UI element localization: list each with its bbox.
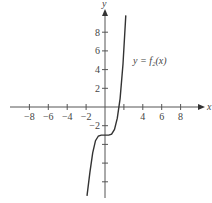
- x-axis-arrow-icon: [198, 104, 205, 110]
- x-tick-label: −6: [43, 111, 54, 122]
- y-axis-arrow-icon: [102, 9, 108, 16]
- series-line-f2: [87, 15, 126, 195]
- x-tick-label: 8: [178, 111, 183, 122]
- x-tick-label: −8: [24, 111, 35, 122]
- x-tick-label: −4: [62, 111, 73, 122]
- series-label: y = f₂(x): [132, 55, 167, 67]
- y-axis-label: y: [101, 0, 107, 9]
- y-tick-label: 8: [95, 27, 100, 38]
- x-tick-label: 6: [159, 111, 164, 122]
- y-tick-label: 2: [95, 83, 100, 94]
- y-tick-label: 4: [95, 64, 100, 75]
- chart: x y −8−6−4−2468−22468 y = f₂(x): [0, 0, 212, 203]
- x-axis-label: x: [206, 101, 212, 112]
- x-tick-label: 4: [140, 111, 145, 122]
- y-tick-label: −2: [89, 120, 100, 131]
- y-tick-label: 6: [95, 45, 100, 56]
